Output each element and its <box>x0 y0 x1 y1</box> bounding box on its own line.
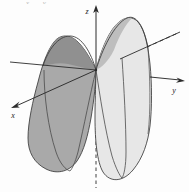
x-axis-label: x <box>10 111 15 120</box>
y-axis-positive <box>150 77 180 80</box>
saddle-surface-figure: x y <box>0 0 189 192</box>
surface-canvas: z y x <box>0 0 189 192</box>
origin-saddle-point <box>95 69 97 71</box>
right-lobe <box>95 18 152 180</box>
z-axis-label: z <box>84 7 89 16</box>
right-lobe-group <box>95 17 152 179</box>
y-axis-label: y <box>171 86 176 95</box>
left-lobe-group <box>28 36 96 172</box>
